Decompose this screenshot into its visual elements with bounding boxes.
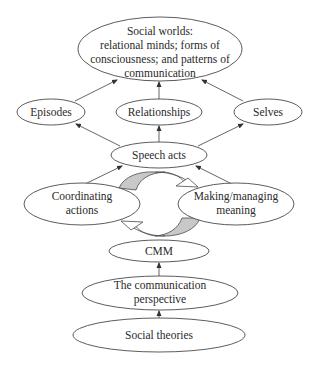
social-worlds-line-3: consciousness; and patterns of bbox=[90, 53, 230, 66]
social-worlds-line-4: communication bbox=[124, 67, 196, 79]
node-episodes: Episodes bbox=[17, 99, 85, 125]
node-cmm: CMM bbox=[109, 240, 209, 262]
coordinating-actions-line-1: Coordinating bbox=[52, 190, 113, 203]
making-managing-meaning-line-2: meaning bbox=[216, 204, 256, 217]
communication-perspective-line-1: The communication bbox=[114, 279, 207, 291]
node-social-worlds: Social worlds: relational minds; forms o… bbox=[78, 17, 242, 81]
cmm-diagram: Social worlds: relational minds; forms o… bbox=[0, 0, 319, 370]
arrow-coordinating-to-speech-acts bbox=[85, 166, 122, 184]
arrow-episodes-to-social-worlds bbox=[75, 80, 117, 101]
social-worlds-line-2: relational minds; forms of bbox=[100, 39, 220, 51]
cmm-label: CMM bbox=[145, 245, 173, 257]
coordinating-actions-line-2: actions bbox=[66, 204, 99, 216]
selves-label: Selves bbox=[253, 106, 284, 118]
arrow-speech-acts-to-episodes bbox=[76, 124, 120, 146]
node-communication-perspective: The communication perspective bbox=[82, 276, 238, 310]
speech-acts-label: Speech acts bbox=[132, 149, 186, 162]
node-coordinating-actions: Coordinating actions bbox=[24, 183, 140, 225]
node-relationships: Relationships bbox=[116, 99, 202, 125]
arrow-speech-acts-to-selves bbox=[198, 124, 243, 146]
node-social-theories: Social theories bbox=[73, 318, 245, 352]
node-selves: Selves bbox=[234, 99, 302, 125]
arrow-making-meaning-to-speech-acts bbox=[196, 166, 232, 184]
social-theories-label: Social theories bbox=[125, 329, 194, 341]
social-worlds-line-1: Social worlds: bbox=[127, 25, 193, 37]
relationships-label: Relationships bbox=[128, 106, 191, 119]
episodes-label: Episodes bbox=[30, 106, 72, 119]
communication-perspective-line-2: perspective bbox=[134, 293, 186, 306]
node-making-managing-meaning: Making/managing meaning bbox=[178, 183, 294, 225]
arrow-selves-to-social-worlds bbox=[202, 80, 243, 101]
node-speech-acts: Speech acts bbox=[111, 142, 207, 168]
making-managing-meaning-line-1: Making/managing bbox=[194, 190, 279, 203]
